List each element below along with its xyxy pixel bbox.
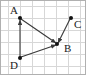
vertex-label-A: A bbox=[10, 4, 18, 16]
vertex-point-D bbox=[18, 56, 22, 60]
vertex-label-B: B bbox=[64, 42, 71, 54]
vertex-point-B bbox=[55, 42, 59, 46]
grid-diagram: ABCD bbox=[0, 0, 86, 75]
vertex-label-D: D bbox=[10, 59, 18, 71]
vertex-point-A bbox=[18, 16, 22, 20]
vertex-label-C: C bbox=[74, 18, 81, 30]
figure-container: ABCD bbox=[0, 0, 86, 75]
vertex-point-C bbox=[69, 16, 73, 20]
